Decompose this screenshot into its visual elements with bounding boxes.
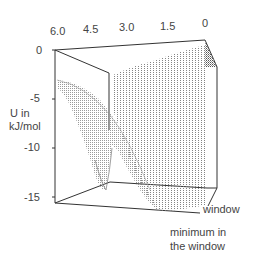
- y-axis-label-line1: U in: [10, 107, 30, 120]
- x-tick-0: 0: [202, 17, 208, 30]
- x-tick-1.5: 1.5: [160, 20, 175, 33]
- y-tick-neg5: -5: [30, 92, 40, 105]
- x-tick-4.5: 4.5: [83, 23, 98, 36]
- depth-axis-sublabel-line2: the window: [170, 240, 225, 253]
- y-axis-label-line2: kJ/mol: [9, 120, 41, 133]
- x-tick-3.0: 3.0: [119, 21, 134, 34]
- y-tick-neg15: -15: [24, 191, 40, 204]
- depth-axis-label: window: [203, 203, 240, 216]
- y-tick-0: 0: [36, 44, 42, 57]
- depth-axis-sublabel-line1: minimum in: [170, 226, 226, 239]
- y-tick-neg10: -10: [24, 141, 40, 154]
- surface-wall: [113, 45, 207, 212]
- x-tick-6.0: 6.0: [50, 25, 65, 38]
